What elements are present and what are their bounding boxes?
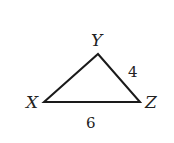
vertex-label-z: Z [144, 92, 158, 112]
triangle-xyz [44, 54, 140, 102]
side-label-yz: 4 [128, 63, 138, 81]
vertex-label-y: Y [91, 30, 104, 50]
triangle-diagram: X Y Z 4 6 [0, 0, 174, 143]
vertex-label-x: X [24, 92, 39, 112]
side-label-xz: 6 [86, 114, 96, 132]
